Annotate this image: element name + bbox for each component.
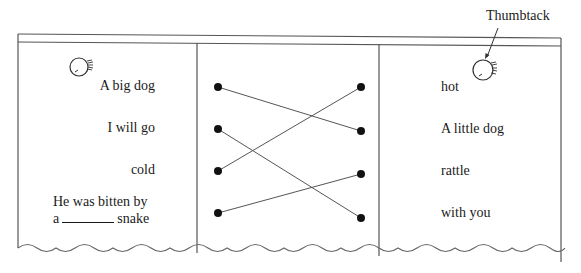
left-dot-2[interactable] xyxy=(214,125,222,133)
left-item-1: A big dog xyxy=(5,78,155,94)
right-item-1: hot xyxy=(441,79,459,95)
fill-in-blank[interactable] xyxy=(62,212,114,223)
match-line-snake-rattle xyxy=(218,174,361,213)
thumbtack-label: Thumbtack xyxy=(486,8,550,24)
left-item-4-line1: He was bitten by xyxy=(53,194,147,210)
right-item-2: A little dog xyxy=(441,121,504,137)
right-item-4: with you xyxy=(441,205,490,221)
wavy-bottom-edge xyxy=(18,245,565,252)
top-rail-inner xyxy=(18,42,561,46)
match-lines xyxy=(218,87,361,218)
left-dot-1[interactable] xyxy=(214,83,222,91)
left-item-4-before-blank: a xyxy=(53,211,59,226)
left-dot-3[interactable] xyxy=(214,167,222,175)
right-item-3: rattle xyxy=(441,163,470,179)
matching-board: Thumbtack A big dog I will go cold He wa… xyxy=(0,0,581,273)
thumbtack-icon-left xyxy=(70,58,93,76)
right-dot-2[interactable] xyxy=(357,127,365,135)
left-item-4-line2: asnake xyxy=(53,211,149,227)
thumbtack-pointer-arrow xyxy=(485,28,498,59)
left-item-3: cold xyxy=(5,162,155,178)
left-item-2: I will go xyxy=(5,120,155,136)
thumbtack-icon-right xyxy=(473,60,497,80)
left-dot-4[interactable] xyxy=(214,209,222,217)
top-rail-outer xyxy=(18,34,561,38)
right-dot-4[interactable] xyxy=(357,214,365,222)
left-item-4-after-blank: snake xyxy=(117,211,149,226)
match-line-willgo-withyou xyxy=(218,129,361,218)
match-line-bigdog-littledog xyxy=(218,87,361,131)
match-dots xyxy=(214,83,365,222)
right-dot-1[interactable] xyxy=(357,83,365,91)
right-dot-3[interactable] xyxy=(357,170,365,178)
match-line-cold-hot xyxy=(218,87,361,171)
